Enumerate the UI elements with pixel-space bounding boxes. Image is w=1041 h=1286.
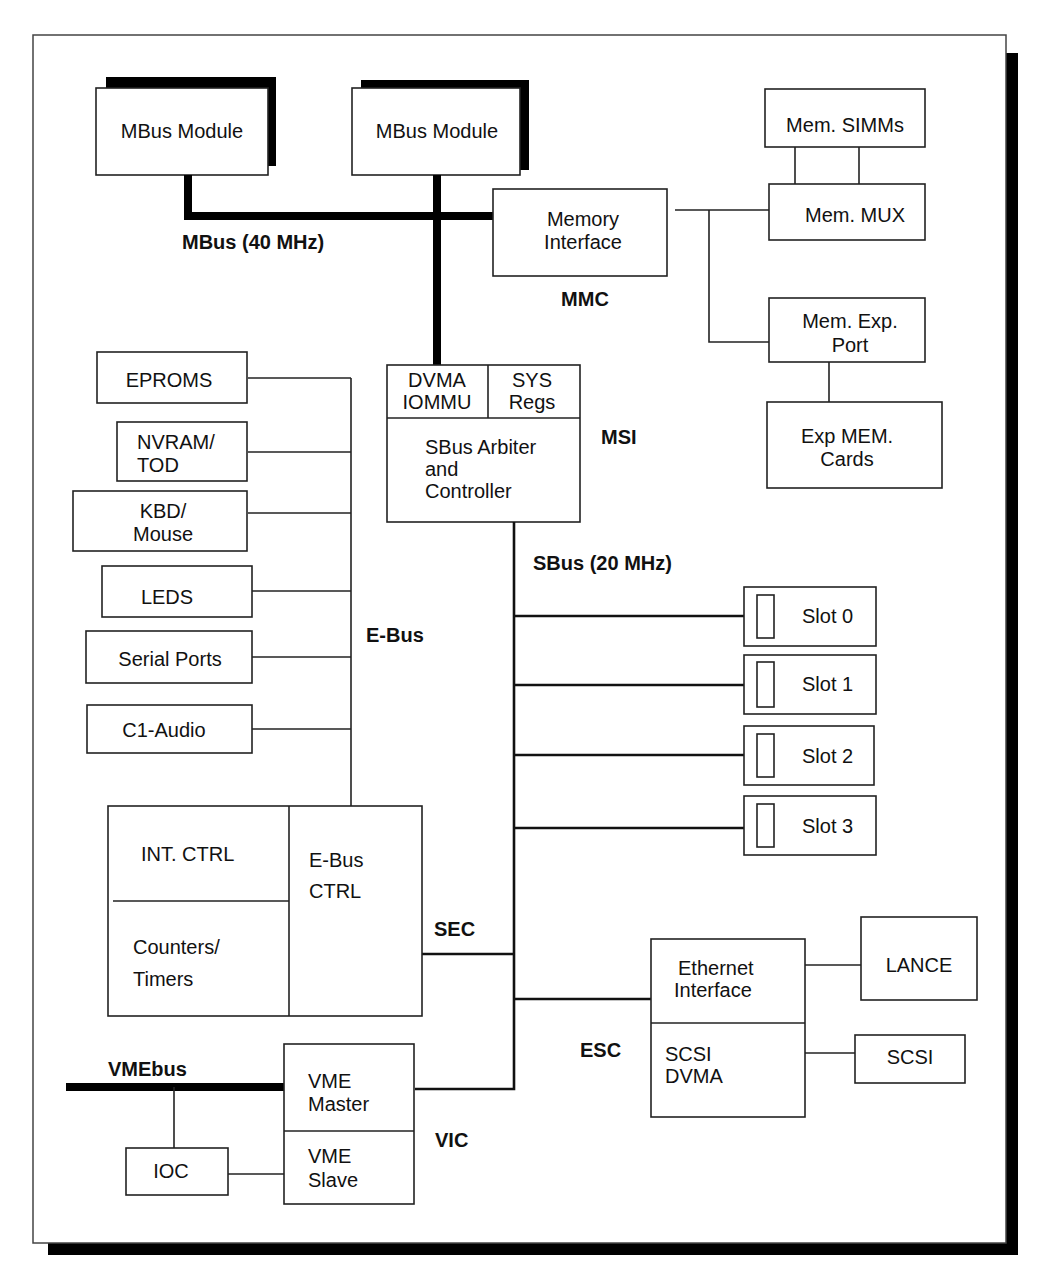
scsi-dvma-line-2: DVMA (665, 1065, 723, 1087)
block-diagram: MBus Module MBus Module MBus (40 MHz) Me… (0, 0, 1041, 1286)
scsi-label: SCSI (887, 1046, 934, 1068)
ebus-device-nvram: NVRAM/ TOD (117, 422, 247, 481)
memory-interface-line-2: Interface (544, 231, 622, 253)
slot-2-label: Slot 2 (802, 745, 853, 767)
vmebus-label: VMEbus (108, 1058, 187, 1080)
mem-mux: Mem. MUX (769, 184, 925, 240)
mem-exp-port-line-2: Port (832, 334, 869, 356)
scsi-dvma-line-1: SCSI (665, 1043, 712, 1065)
vme-master-line-1: VME (308, 1070, 351, 1092)
slot-2: Slot 2 (744, 726, 874, 785)
lance-label: LANCE (886, 954, 953, 976)
msi-block: DVMA IOMMU SYS Regs SBus Arbiter and Con… (387, 365, 580, 522)
ebus-device-serial: Serial Ports (86, 631, 252, 683)
vme-slave-line-1: VME (308, 1145, 351, 1167)
mem-simms: Mem. SIMMs (765, 89, 925, 147)
frame-shadow-bottom (48, 1243, 1018, 1255)
mem-simms-label: Mem. SIMMs (786, 114, 904, 136)
vic-label: VIC (435, 1129, 468, 1151)
dvma-line-1: DVMA (408, 369, 466, 391)
kbd-line-1: KBD/ (140, 500, 187, 522)
ebus-device-leds: LEDS (102, 566, 252, 617)
exp-mem-cards-line-2: Cards (820, 448, 873, 470)
slot-1-label: Slot 1 (802, 673, 853, 695)
vme-slave-line-2: Slave (308, 1169, 358, 1191)
arbiter-line-2: and (425, 458, 458, 480)
lance: LANCE (861, 917, 977, 1000)
arbiter-line-1: SBus Arbiter (425, 436, 537, 458)
slot-0-label: Slot 0 (802, 605, 853, 627)
sec-label: SEC (434, 918, 475, 940)
mbus-module-1: MBus Module (96, 77, 276, 175)
mem-exp-port-line-1: Mem. Exp. (802, 310, 898, 332)
kbd-line-2: Mouse (133, 523, 193, 545)
ethernet-line-2: Interface (674, 979, 752, 1001)
eproms-label: EPROMS (126, 369, 213, 391)
ioc: IOC (126, 1148, 228, 1195)
slot-3-label: Slot 3 (802, 815, 853, 837)
vic-block: VME Master VME Slave (284, 1044, 414, 1204)
ethernet-line-1: Ethernet (678, 957, 754, 979)
memory-interface: Memory Interface (493, 189, 667, 276)
arbiter-line-3: Controller (425, 480, 512, 502)
sys-line-1: SYS (512, 369, 552, 391)
sec-block: INT. CTRL Counters/ Timers E-Bus CTRL (108, 806, 422, 1016)
exp-mem-cards: Exp MEM. Cards (767, 402, 942, 488)
ioc-label: IOC (153, 1160, 189, 1182)
ebus-label: E-Bus (366, 624, 424, 646)
ebus-device-kbd: KBD/ Mouse (73, 491, 247, 551)
esc-block: Ethernet Interface SCSI DVMA (651, 939, 805, 1117)
counters-line-1: Counters/ (133, 936, 220, 958)
mmc-label: MMC (561, 288, 609, 310)
mbus-module-1-label: MBus Module (121, 120, 243, 142)
sys-line-2: Regs (509, 391, 556, 413)
exp-mem-cards-line-1: Exp MEM. (801, 425, 893, 447)
memory-interface-line-1: Memory (547, 208, 619, 230)
vme-master-line-2: Master (308, 1093, 369, 1115)
mem-exp-port: Mem. Exp. Port (769, 298, 925, 362)
slot-1: Slot 1 (744, 655, 876, 714)
counters-line-2: Timers (133, 968, 193, 990)
serial-ports-label: Serial Ports (118, 648, 221, 670)
c1-audio-label: C1-Audio (122, 719, 205, 741)
scsi: SCSI (855, 1035, 965, 1083)
ebus-device-audio: C1-Audio (87, 705, 252, 753)
mbus-module-2: MBus Module (352, 80, 529, 175)
ebus-ctrl-line-2: CTRL (309, 880, 361, 902)
msi-label: MSI (601, 426, 637, 448)
nvram-line-2: TOD (137, 454, 179, 476)
dvma-line-2: IOMMU (403, 391, 472, 413)
mbus-label: MBus (40 MHz) (182, 231, 324, 253)
nvram-line-1: NVRAM/ (137, 431, 215, 453)
int-ctrl-label: INT. CTRL (141, 843, 234, 865)
slot-3: Slot 3 (744, 796, 876, 855)
slot-0: Slot 0 (744, 587, 876, 646)
ebus-ctrl-line-1: E-Bus (309, 849, 363, 871)
leds-label: LEDS (141, 586, 193, 608)
esc-label: ESC (580, 1039, 621, 1061)
frame-shadow-right (1006, 53, 1018, 1255)
mem-mux-label: Mem. MUX (805, 204, 905, 226)
mbus-module-2-label: MBus Module (376, 120, 498, 142)
sbus-label: SBus (20 MHz) (533, 552, 672, 574)
ebus-device-eproms: EPROMS (97, 352, 247, 403)
